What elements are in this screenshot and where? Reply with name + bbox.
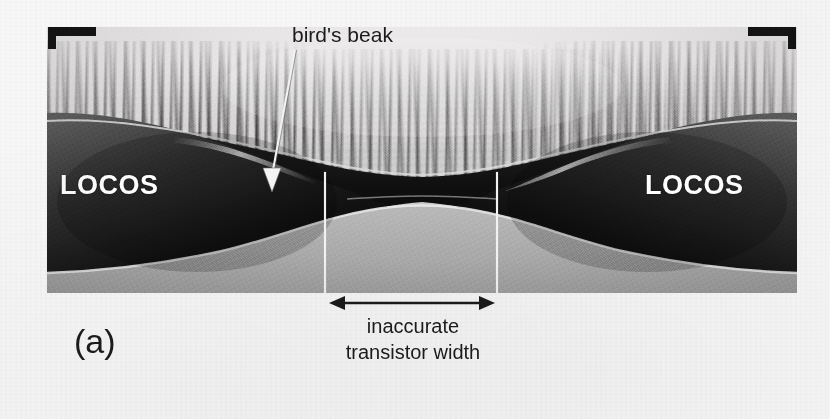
transistor-width-caption: inaccurate transistor width [330,313,496,365]
shading-blob-right [507,132,787,272]
width-guide-line-right [496,172,498,293]
micrograph-structure-svg [47,27,797,293]
corner-bracket-stub-right-icon [788,27,796,49]
panel-label: (a) [74,322,116,361]
dimension-arrowhead-right [479,296,495,310]
shading-blob-left [57,132,337,272]
birds-beak-annotation-label: bird's beak [292,23,393,47]
locos-label-left: LOCOS [60,170,159,201]
corner-bracket-stub-left-icon [48,27,56,49]
width-guide-line-left [324,172,326,293]
locos-label-right: LOCOS [645,170,744,201]
dimension-arrowhead-left [329,296,345,310]
locos-cross-section-micrograph: LOCOS LOCOS [47,27,797,293]
shading-blob-center [222,37,622,137]
figure-page: LOCOS LOCOS bird's beak inaccurate trans… [0,0,830,419]
caption-line-1: inaccurate [330,313,496,339]
caption-line-2: transistor width [330,339,496,365]
